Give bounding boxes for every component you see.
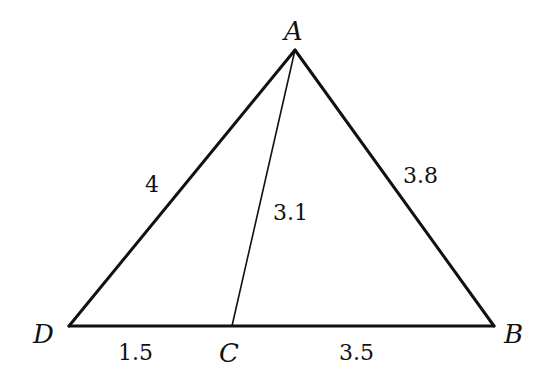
length-label-DA: 4 — [145, 172, 159, 197]
segment-DA — [69, 50, 295, 326]
vertex-label-D: D — [32, 319, 54, 349]
vertex-label-A: A — [282, 16, 303, 46]
triangle-diagram: A D C B 4 3.8 3.1 1.5 3.5 — [0, 0, 552, 384]
length-label-CB: 3.5 — [339, 340, 374, 365]
segment-AC — [232, 50, 295, 326]
segment-AB — [295, 50, 494, 326]
length-label-AC: 3.1 — [273, 200, 308, 225]
vertex-label-C: C — [219, 338, 239, 368]
diagram-canvas: A D C B 4 3.8 3.1 1.5 3.5 — [0, 0, 552, 384]
length-label-AB: 3.8 — [403, 163, 438, 188]
length-label-DC: 1.5 — [118, 340, 153, 365]
vertex-label-B: B — [503, 319, 523, 349]
